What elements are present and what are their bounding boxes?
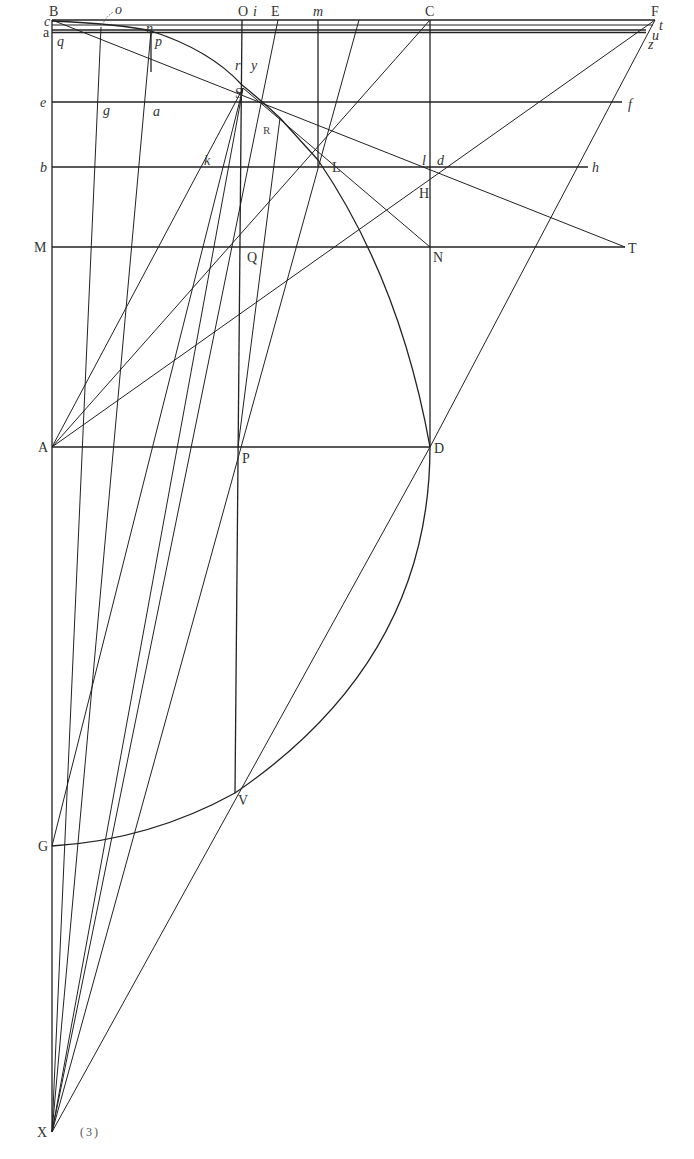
label-p: p [154,34,162,49]
label-i: i [253,4,257,19]
label-e: e [40,95,46,110]
label-D: D [434,441,444,456]
label-f: f [628,97,634,112]
label-Q: Q [247,250,257,265]
label-r: r [235,58,241,73]
line-cT [52,20,625,247]
label-H: H [419,186,429,201]
label-X: X [37,1125,47,1140]
label-E: E [271,4,280,19]
label-z: z [647,37,654,52]
label-R: R [263,124,271,136]
label-a-left: a [43,25,50,40]
label-t: t [659,18,664,33]
label-V: V [238,793,248,808]
label-h: h [592,160,599,175]
label-m: m [313,4,323,19]
label-a-mid: a [153,104,160,119]
label-G: G [38,839,48,854]
figure-caption: (3) [80,1125,100,1139]
o-leader [102,12,114,25]
label-d: d [437,153,445,168]
point-labels: B c a q e b M A G X o η p g a O i E m C … [34,2,664,1140]
lines-from-A [52,20,655,447]
label-b: b [40,160,47,175]
top-horizontal-lines [52,20,655,33]
label-O: O [238,4,248,19]
label-k: k [204,153,211,168]
geometric-diagram: B c a q e b M A G X o η p g a O i E m C … [0,0,694,1159]
label-o: o [115,2,122,17]
line-DF [430,20,655,447]
label-N: N [433,250,443,265]
label-eta: η [146,21,153,36]
label-q: q [57,34,64,49]
label-P: P [242,451,250,466]
label-M: M [34,240,47,255]
label-T: T [628,241,637,256]
label-B: B [49,4,58,19]
label-L: L [332,160,341,175]
vertical-lines [52,20,430,1132]
label-l: l [422,153,426,168]
label-g: g [103,103,110,118]
horizontal-lines [52,102,625,447]
label-A: A [38,440,49,455]
label-F: F [651,4,659,19]
label-C: C [425,4,434,19]
label-y: y [249,58,258,73]
line-GS [52,88,243,846]
label-S: S [235,86,243,101]
